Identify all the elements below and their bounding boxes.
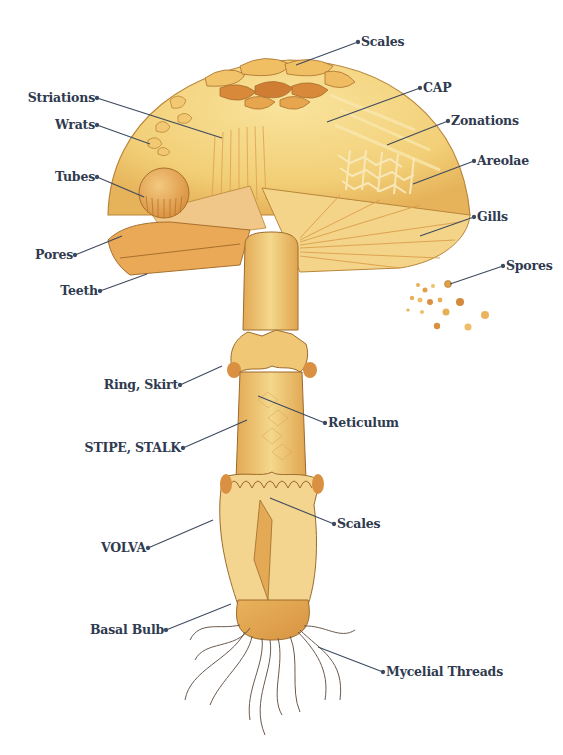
label-teeth: Teeth xyxy=(0,284,98,298)
label-basal-bulb: Basal Bulb xyxy=(40,623,164,637)
label-zonations: Zonations xyxy=(451,114,519,128)
label-spores: Spores xyxy=(506,259,552,273)
label-stipe-stalk: STIPE, STALK xyxy=(40,441,181,455)
label-scales-cap: Scales xyxy=(361,35,404,49)
label-scales-volva: Scales xyxy=(337,517,380,531)
label-cap: CAP xyxy=(423,81,451,95)
mushroom-anatomy-diagram: Scales CAP Striations Wrats Zonations Ar… xyxy=(0,0,563,755)
stipe-shape xyxy=(220,232,324,640)
label-pores: Pores xyxy=(0,248,73,262)
mycelial-threads xyxy=(185,625,355,735)
label-areolae: Areolae xyxy=(477,154,529,168)
label-tubes: Tubes xyxy=(20,170,95,184)
label-gills: Gills xyxy=(477,210,508,224)
label-volva: VOLVA xyxy=(60,541,146,555)
label-striations: Striations xyxy=(20,91,95,105)
spores-cluster xyxy=(406,281,489,331)
label-wrats: Wrats xyxy=(20,118,95,132)
label-mycelial-threads: Mycelial Threads xyxy=(386,665,503,679)
label-reticulum: Reticulum xyxy=(328,416,399,430)
label-ring-skirt: Ring, Skirt xyxy=(60,378,178,392)
